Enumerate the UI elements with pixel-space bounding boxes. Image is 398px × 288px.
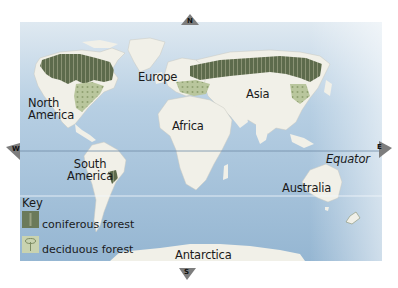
asia-label: Asia [246,88,269,100]
equator-label: Equator [326,153,370,165]
key-item-deciduous: deciduous forest [22,236,133,253]
west-label: W [12,145,20,153]
north-label: N [187,17,193,25]
key-label-deciduous: deciduous forest [42,243,133,256]
north-america-label-line2: America [28,109,74,121]
south-label: S [184,268,189,276]
east-label: E [377,143,382,151]
deciduous-tree-icon [22,236,39,253]
south-america-label: South America [67,158,113,182]
south-america-label-line2: America [67,170,113,182]
north-america-label: North America [28,97,74,121]
africa-label: Africa [172,120,204,132]
conifer-tree-icon [22,211,39,228]
key-title: Key [22,196,43,210]
antarctica-label: Antarctica [175,249,232,261]
australia-label: Australia [282,182,331,194]
key-label-coniferous: coniferous forest [42,218,134,231]
europe-label: Europe [138,71,177,83]
key-item-coniferous: coniferous forest [22,211,134,228]
